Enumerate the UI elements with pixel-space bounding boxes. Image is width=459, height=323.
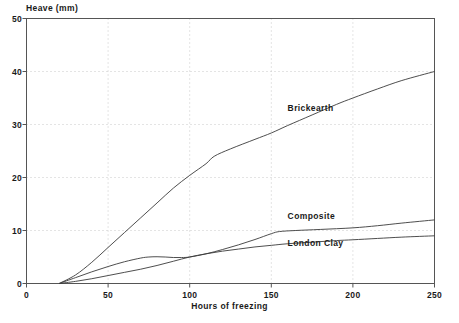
- heave-vs-freezing-chart: Heave (mm) 01020304050 050100150200250 B…: [0, 0, 459, 323]
- x-tick-label: 150: [256, 290, 286, 300]
- series-label-brickearth: Brickearth: [288, 103, 334, 113]
- axis-ticks: [23, 19, 435, 288]
- y-tick-label: 40: [2, 67, 22, 77]
- x-tick-label: 0: [12, 290, 42, 300]
- y-tick-label: 10: [2, 226, 22, 236]
- plot-canvas: [0, 0, 459, 323]
- y-tick-label: 50: [2, 14, 22, 24]
- x-tick-label: 250: [420, 290, 450, 300]
- series-line-london-clay: [59, 236, 434, 284]
- x-tick-label: 50: [93, 290, 123, 300]
- y-tick-label: 20: [2, 173, 22, 183]
- y-tick-label: 30: [2, 120, 22, 130]
- x-tick-label: 100: [175, 290, 205, 300]
- series-label-composite: Composite: [288, 211, 336, 221]
- gridlines: [27, 19, 435, 284]
- x-axis-title: Hours of freezing: [0, 301, 459, 311]
- plot-frame: [27, 19, 435, 284]
- x-tick-label: 200: [338, 290, 368, 300]
- y-tick-label: 0: [2, 279, 22, 289]
- series-label-london-clay: London Clay: [288, 238, 344, 248]
